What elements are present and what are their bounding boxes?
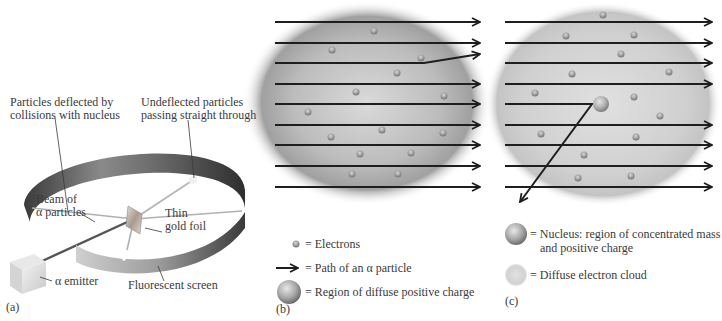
electron-icon bbox=[293, 241, 300, 248]
label-undeflected-2: passing straight through bbox=[141, 108, 256, 122]
label-foil-2: gold foil bbox=[165, 219, 206, 233]
fluorescent-screen bbox=[76, 212, 245, 273]
label-beam-1: Beam of bbox=[36, 192, 77, 206]
legend-diffuse-charge: = Region of diffuse positive charge bbox=[305, 285, 474, 299]
label-undeflected-1: Undeflected particles bbox=[141, 95, 243, 109]
label-screen: Fluorescent screen bbox=[128, 278, 218, 292]
label-foil-1: Thin bbox=[165, 206, 188, 220]
electron-cloud-icon bbox=[505, 264, 527, 286]
legend-electrons: = Electrons bbox=[305, 237, 360, 251]
label-deflected-1: Particles deflected by bbox=[10, 95, 113, 109]
legend-nucleus-2: and positive charge bbox=[540, 241, 633, 255]
alpha-emitter-cube bbox=[10, 254, 46, 294]
diffuse-charge-icon bbox=[277, 280, 301, 304]
legend-electron-cloud: = Diffuse electron cloud bbox=[530, 268, 647, 282]
panel-letter-b: (b) bbox=[276, 302, 290, 317]
legend-alpha-path: = Path of an α particle bbox=[305, 261, 412, 275]
screen-flash bbox=[122, 257, 126, 261]
nucleus-icon bbox=[505, 223, 527, 245]
impact-spot bbox=[189, 176, 197, 184]
panel-letter-c: (c) bbox=[505, 294, 518, 309]
label-emitter: α emitter bbox=[55, 274, 98, 288]
gold-foil bbox=[126, 206, 142, 234]
label-beam-2: α particles bbox=[36, 205, 86, 219]
legend-nucleus-1: = Nucleus: region of concentrated mass bbox=[530, 227, 720, 241]
label-deflected-2: collisions with nucleus bbox=[10, 108, 120, 122]
nucleus bbox=[593, 96, 609, 112]
panel-letter-a: (a) bbox=[6, 300, 19, 315]
